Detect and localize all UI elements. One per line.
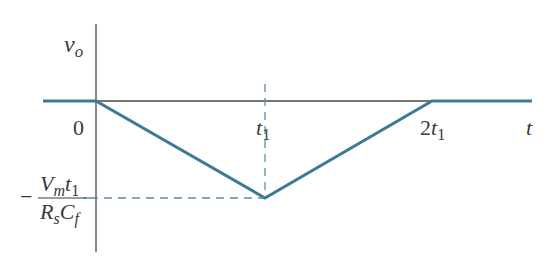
minus-sign: −	[20, 184, 32, 209]
origin-label: 0	[73, 115, 84, 140]
t1-tick-label: t1	[256, 115, 270, 143]
waveform-diagram: vo 0 t1 2t1 t − Vmt1 RsCf	[0, 0, 560, 267]
output-waveform	[43, 101, 532, 198]
two-t1-tick-label: 2t1	[420, 115, 445, 143]
fraction-numerator: Vmt1	[40, 171, 79, 199]
y-axis-label: vo	[64, 31, 83, 61]
x-axis-label: t	[526, 115, 533, 140]
